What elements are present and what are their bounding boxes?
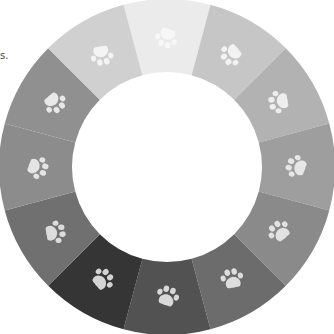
paw-ring-graphic (0, 0, 334, 334)
